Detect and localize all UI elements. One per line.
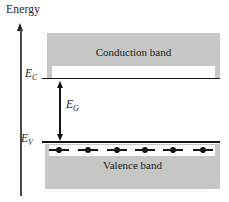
eg-subscript: G xyxy=(73,104,79,113)
energy-axis-label: Energy xyxy=(6,3,40,15)
electron-icon xyxy=(193,145,213,156)
electron-dot xyxy=(170,147,176,153)
electron-dot xyxy=(85,147,91,153)
valence-band-label: Valence band xyxy=(45,159,220,171)
electron-icon xyxy=(135,145,155,156)
ev-subscript: V xyxy=(28,138,33,147)
electron-dot xyxy=(114,147,120,153)
ec-base: E xyxy=(25,67,32,79)
electron-icon xyxy=(107,145,127,156)
valence-band-region: Valence band xyxy=(45,144,220,189)
ev-level-label: EV xyxy=(21,132,33,147)
conduction-band-edge-line xyxy=(42,78,220,80)
electron-dot xyxy=(142,147,148,153)
eg-base: E xyxy=(66,98,73,110)
electron-dot xyxy=(200,147,206,153)
electron-icon xyxy=(49,145,69,156)
valence-band-white-strip xyxy=(49,145,215,156)
conduction-band-region: Conduction band xyxy=(47,33,220,79)
ec-subscript: C xyxy=(32,73,37,82)
conduction-band-label: Conduction band xyxy=(47,46,220,58)
ec-level-label: EC xyxy=(25,67,37,82)
band-gap-label: EG xyxy=(66,98,79,113)
energy-axis-line xyxy=(20,29,21,196)
electron-dot xyxy=(56,147,62,153)
electron-icon xyxy=(78,145,98,156)
band-gap-arrowhead-down-icon xyxy=(57,134,63,141)
ev-base: E xyxy=(21,132,28,144)
electron-icon xyxy=(163,145,183,156)
band-gap-arrow-shaft xyxy=(59,84,60,138)
energy-band-diagram: Energy Conduction band EC EG EV Valence … xyxy=(0,0,229,202)
